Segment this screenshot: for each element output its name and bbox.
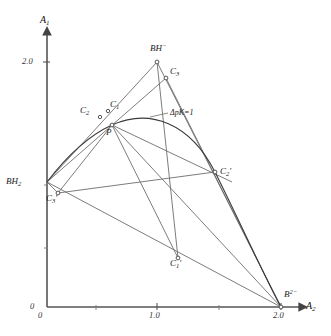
delta-pk-annotation: ΔpK=1 [170,108,193,117]
x-tick-label-1: 1.0 [149,310,160,320]
marker-bh-minus[interactable] [155,60,159,64]
label-c2-prime: C2′ [220,166,231,177]
y-axis-label: A1 [40,14,50,27]
x-tick-label-0: 0 [38,310,42,320]
label-bh2: BH2 [6,176,21,187]
x-axis-label: A2 [306,300,316,313]
x-tick-label-2: 2.0 [273,310,284,320]
label-c1-prime: C1′ [170,258,181,269]
point-markers [56,60,283,309]
construction-lines [47,62,281,307]
line-bh2-to-b2minus [47,182,281,307]
line-p-to-b2minus [112,125,281,307]
label-p: P [106,127,112,137]
label-b2-minus: B2− [284,288,297,299]
delta-pk-leader [150,113,168,117]
label-c3-prime: C3′ [46,193,57,204]
line-bhminus-to-c1prime [157,62,178,258]
label-c1: C1 [110,99,119,110]
y-tick-label-2: 2.0 [22,56,33,66]
figure-canvas: A1 A2 2.0 0 0 1.0 2.0 BH2 BH− B2− C1 C2 … [0,0,331,336]
marker-c2-prime[interactable] [213,170,217,174]
label-c3: C3 [170,66,179,77]
titration-curve-group [47,113,281,307]
line-p-to-c1prime [112,125,178,258]
y-tick-label-0: 0 [30,301,34,311]
line-bh2-to-bhminus [47,62,157,182]
marker-c3[interactable] [164,76,168,80]
label-c2: C2 [80,105,89,116]
marker-b2-minus[interactable] [279,305,283,309]
marker-c2[interactable] [98,115,101,118]
label-bh-minus: BH− [150,42,166,53]
delta-pk-curve [47,118,281,307]
